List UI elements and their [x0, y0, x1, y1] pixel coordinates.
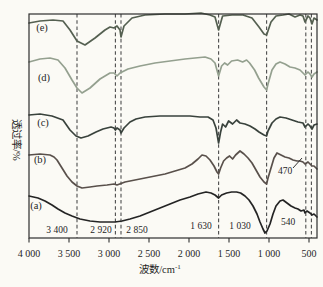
- curve-label-b: (b): [34, 154, 47, 166]
- ftir-spectra-figure: (e)(d)(c)(b)(a)3 4002 9202 8501 6301 030…: [0, 0, 323, 287]
- curve-label-a: (a): [30, 200, 42, 212]
- x-tick-label-500: 500: [302, 248, 317, 259]
- figure-background: [0, 0, 323, 287]
- x-tick-label-4000: 4 000: [18, 248, 41, 259]
- x-tick-label-3500: 3 500: [58, 248, 81, 259]
- band-annotation-540: 540: [281, 217, 296, 227]
- curve-label-d: (d): [38, 72, 51, 84]
- ftir-chart-canvas: (e)(d)(c)(b)(a)3 4002 9202 8501 6301 030…: [0, 0, 323, 287]
- y-axis-title: 透过率/%: [11, 119, 23, 161]
- band-annotation-1030: 1 030: [229, 221, 251, 231]
- curve-label-c: (c): [37, 117, 49, 129]
- band-annotation-1630: 1 630: [190, 221, 212, 231]
- band-annotation-2850: 2 850: [126, 225, 148, 235]
- x-tick-label-1000: 1 000: [258, 248, 281, 259]
- curve-label-e: (e): [36, 22, 48, 34]
- x-tick-label-2500: 2 500: [138, 248, 161, 259]
- band-annotation-470: 470: [278, 166, 293, 176]
- x-tick-label-1500: 1 500: [218, 248, 241, 259]
- x-tick-label-3000: 3 000: [98, 248, 121, 259]
- x-tick-label-2000: 2 000: [178, 248, 201, 259]
- band-annotation-2920: 2 920: [90, 225, 112, 235]
- band-annotation-3400: 3 400: [46, 225, 68, 235]
